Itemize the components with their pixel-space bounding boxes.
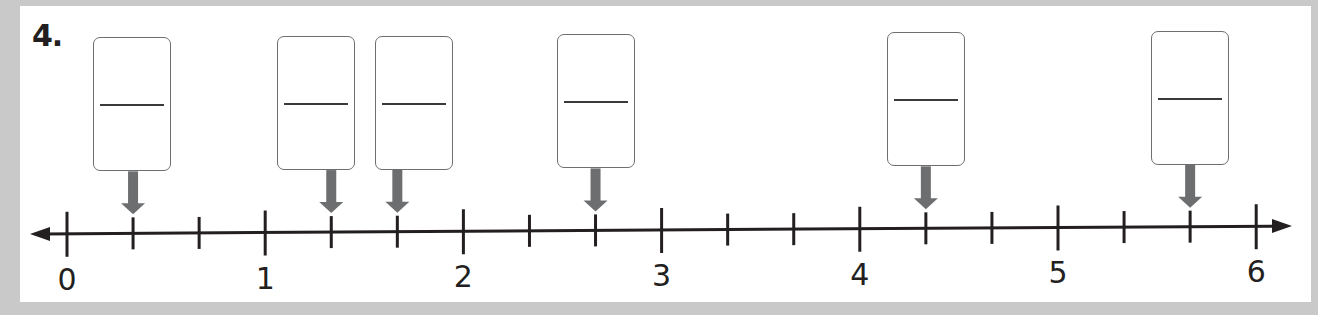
fraction-bar bbox=[382, 103, 446, 105]
pointer-arrow-icon bbox=[584, 200, 608, 211]
pointer-arrow-shaft bbox=[128, 171, 138, 205]
pointer-arrow-shaft bbox=[1185, 165, 1195, 199]
denominator-field[interactable] bbox=[1152, 106, 1228, 146]
tick-label: 1 bbox=[256, 261, 275, 296]
numerator-field[interactable] bbox=[376, 57, 452, 97]
worksheet-stage: 4. 0123456 bbox=[0, 0, 1318, 315]
answer-box[interactable] bbox=[887, 32, 965, 166]
answer-box[interactable] bbox=[277, 36, 355, 170]
pointer-arrow-shaft bbox=[392, 170, 402, 204]
number-line: 0123456 bbox=[0, 0, 1318, 315]
numerator-field[interactable] bbox=[278, 57, 354, 97]
tick-label: 4 bbox=[850, 257, 869, 292]
tick-label: 3 bbox=[652, 258, 671, 293]
right-arrowhead-icon bbox=[1272, 219, 1292, 233]
denominator-field[interactable] bbox=[278, 111, 354, 151]
answer-box[interactable] bbox=[557, 34, 635, 168]
denominator-field[interactable] bbox=[558, 109, 634, 149]
tick-label: 6 bbox=[1247, 254, 1266, 289]
fraction-bar bbox=[100, 104, 164, 106]
denominator-field[interactable] bbox=[94, 112, 170, 152]
denominator-field[interactable] bbox=[888, 107, 964, 147]
numerator-field[interactable] bbox=[888, 53, 964, 93]
answer-box[interactable] bbox=[93, 37, 171, 171]
pointer-arrow-icon bbox=[319, 202, 343, 213]
pointer-arrow-shaft bbox=[591, 168, 601, 202]
left-arrowhead-icon bbox=[30, 227, 50, 241]
pointer-arrow-icon bbox=[121, 203, 145, 214]
pointer-arrow-shaft bbox=[921, 166, 931, 200]
answer-box[interactable] bbox=[375, 36, 453, 170]
pointer-arrow-icon bbox=[914, 198, 938, 209]
tick-label: 2 bbox=[454, 259, 473, 294]
fraction-bar bbox=[1158, 98, 1222, 100]
tick-label: 5 bbox=[1048, 255, 1067, 290]
fraction-bar bbox=[564, 101, 628, 103]
numerator-field[interactable] bbox=[1152, 52, 1228, 92]
pointer-arrow-icon bbox=[1178, 197, 1202, 208]
tick-label: 0 bbox=[57, 262, 76, 297]
pointer-arrow-icon bbox=[385, 202, 409, 213]
answer-box[interactable] bbox=[1151, 31, 1229, 165]
pointer-arrow-shaft bbox=[326, 170, 336, 204]
numerator-field[interactable] bbox=[94, 58, 170, 98]
fraction-bar bbox=[284, 103, 348, 105]
fraction-bar bbox=[894, 99, 958, 101]
numerator-field[interactable] bbox=[558, 55, 634, 95]
denominator-field[interactable] bbox=[376, 111, 452, 151]
